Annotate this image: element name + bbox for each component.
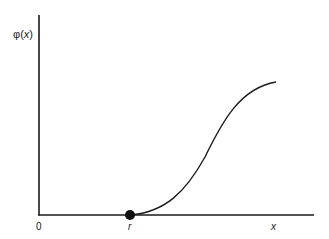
origin-label: 0 bbox=[36, 221, 42, 232]
threshold-point-marker bbox=[125, 210, 135, 220]
y-axis-label: φ(x) bbox=[13, 28, 33, 40]
function-plot: φ(x) 0 r x bbox=[0, 0, 329, 239]
r-label: r bbox=[128, 221, 132, 232]
x-axis-label: x bbox=[270, 221, 277, 232]
diagram-canvas: φ(x) 0 r x bbox=[0, 0, 329, 239]
phi-curve bbox=[130, 82, 276, 215]
